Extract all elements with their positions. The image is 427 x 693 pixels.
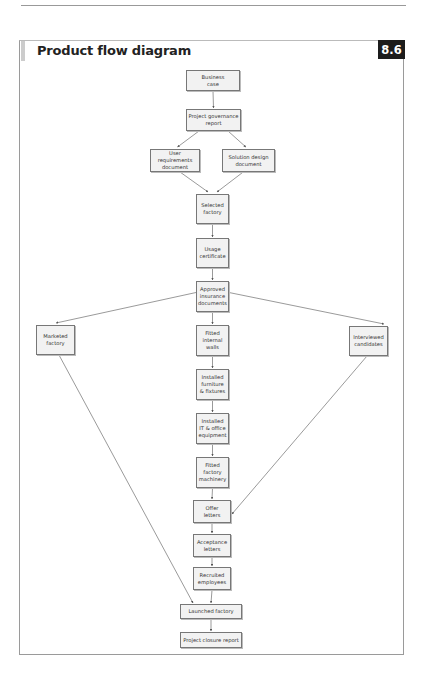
node-usage-certificate: Usage certificate bbox=[196, 238, 229, 268]
edge-recruited-employees-to-launched-factory bbox=[211, 590, 212, 603]
edge-interviewed-candidates-to-offer-letters bbox=[232, 356, 367, 514]
edge-fitted-factory-machinery-to-offer-letters bbox=[212, 488, 213, 499]
node-fitted-factory-machinery: Fitted factory machinery bbox=[196, 457, 229, 488]
node-selected-factory: Selected factory bbox=[196, 194, 229, 224]
node-project-governance-report: Project governance report bbox=[186, 109, 241, 131]
node-project-closure-report: Project closure report bbox=[180, 632, 242, 648]
node-installed-it-office-equipment: Installed IT & office equipment bbox=[196, 413, 229, 444]
node-installed-furniture-fixtures: Installed furniture & fixtures bbox=[196, 369, 229, 400]
node-interviewed-candidates: Interviewed candidates bbox=[349, 326, 388, 356]
node-acceptance-letters: Acceptance letters bbox=[193, 534, 231, 557]
edge-approved-insurance-documents-to-marketed-factory bbox=[56, 293, 196, 324]
edge-marketed-factory-to-launched-factory bbox=[59, 355, 193, 603]
node-offer-letters: Offer letters bbox=[193, 500, 231, 523]
node-fitted-internal-walls: Fitted internal walls bbox=[196, 325, 229, 356]
node-launched-factory: Launched factory bbox=[180, 604, 242, 619]
node-recruited-employees: Recruited employees bbox=[193, 567, 231, 590]
edge-business-case-to-project-governance-report bbox=[213, 91, 214, 108]
edge-approved-insurance-documents-to-interviewed-candidates bbox=[229, 293, 384, 325]
edge-user-requirements-document-to-selected-factory bbox=[180, 172, 208, 192]
node-marketed-factory: Marketed factory bbox=[36, 325, 75, 355]
edge-solution-design-document-to-selected-factory bbox=[217, 172, 243, 192]
edge-project-governance-report-to-user-requirements-document bbox=[178, 131, 200, 147]
node-solution-design-document: Solution design document bbox=[222, 149, 275, 172]
edge-project-governance-report-to-solution-design-document bbox=[228, 131, 246, 147]
node-approved-insurance-documents: Approved insurance documents bbox=[196, 281, 229, 312]
node-business-case: Business case bbox=[186, 70, 240, 91]
node-user-requirements-document: User requirements document bbox=[150, 149, 200, 172]
